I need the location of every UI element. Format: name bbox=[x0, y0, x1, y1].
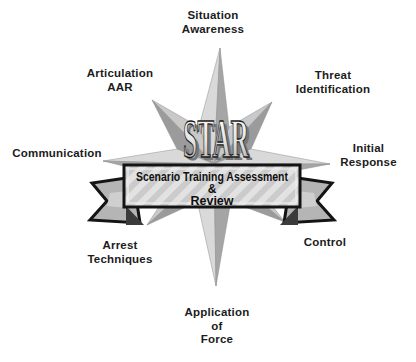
label-line: Communication bbox=[0, 147, 114, 161]
star-diagram: STAR STAR Scenario Training Assessment &… bbox=[0, 0, 416, 362]
label-arrest-techniques: Arrest Techniques bbox=[60, 239, 180, 266]
label-line: Force bbox=[157, 333, 277, 347]
label-line: Initial bbox=[321, 142, 416, 156]
label-line: Arrest bbox=[60, 239, 180, 253]
star-acronym-text: STAR bbox=[183, 109, 249, 169]
label-situation-awareness: Situation Awareness bbox=[153, 9, 273, 36]
label-line: Response bbox=[321, 156, 416, 170]
label-line: Threat bbox=[273, 69, 393, 83]
label-line: Articulation bbox=[60, 67, 180, 81]
ribbon-banner: Scenario Training Assessment & Review bbox=[124, 165, 300, 208]
label-initial-response: Initial Response bbox=[321, 142, 416, 169]
label-control: Control bbox=[277, 236, 373, 250]
label-threat-identification: Threat Identification bbox=[273, 69, 393, 96]
label-application-of-force: Application of Force bbox=[157, 306, 277, 347]
label-line: Control bbox=[277, 236, 373, 250]
label-line: Techniques bbox=[60, 253, 180, 267]
label-articulation-aar: Articulation AAR bbox=[60, 67, 180, 94]
label-communication: Communication bbox=[0, 147, 114, 161]
banner-text-line-3: Review bbox=[190, 194, 233, 208]
label-line: AAR bbox=[60, 81, 180, 95]
label-line: Identification bbox=[273, 83, 393, 97]
label-line: of bbox=[157, 320, 277, 334]
label-line: Awareness bbox=[153, 23, 273, 37]
label-line: Situation bbox=[153, 9, 273, 23]
label-line: Application bbox=[157, 306, 277, 320]
